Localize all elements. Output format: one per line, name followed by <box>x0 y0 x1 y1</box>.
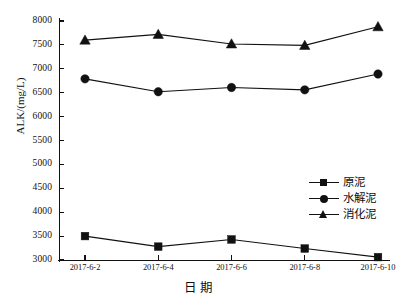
square-marker-icon <box>309 175 339 189</box>
data-point-marker <box>81 232 89 240</box>
circle-marker-icon <box>309 191 339 205</box>
data-point-marker <box>153 29 163 38</box>
legend-item-0[interactable]: 原泥 <box>309 174 395 190</box>
data-point-marker <box>154 243 162 251</box>
legend-label-2: 消化泥 <box>339 207 376 221</box>
data-point-marker <box>373 22 383 31</box>
data-point-marker <box>301 86 309 94</box>
data-point-marker <box>227 83 235 91</box>
chart-figure: ALK/(mg/L) 30003500400045005000550060006… <box>0 0 399 301</box>
series-1 <box>81 70 382 96</box>
data-point-marker <box>301 245 309 253</box>
legend-item-1[interactable]: 水解泥 <box>309 190 395 206</box>
chart-legend: 原泥 水解泥 消化泥 <box>309 174 395 222</box>
data-point-marker <box>374 70 382 78</box>
legend-label-1: 水解泥 <box>339 191 376 205</box>
legend-label-0: 原泥 <box>339 175 365 189</box>
data-point-marker <box>81 75 89 83</box>
series-0 <box>81 232 382 261</box>
x-axis-title: 日期 <box>0 277 399 296</box>
data-point-marker <box>228 236 236 244</box>
data-point-marker <box>154 88 162 96</box>
data-point-marker <box>374 253 382 261</box>
legend-item-2[interactable]: 消化泥 <box>309 206 395 222</box>
data-series-layer <box>0 0 399 301</box>
series-2 <box>80 22 383 50</box>
triangle-marker-icon <box>309 207 339 221</box>
